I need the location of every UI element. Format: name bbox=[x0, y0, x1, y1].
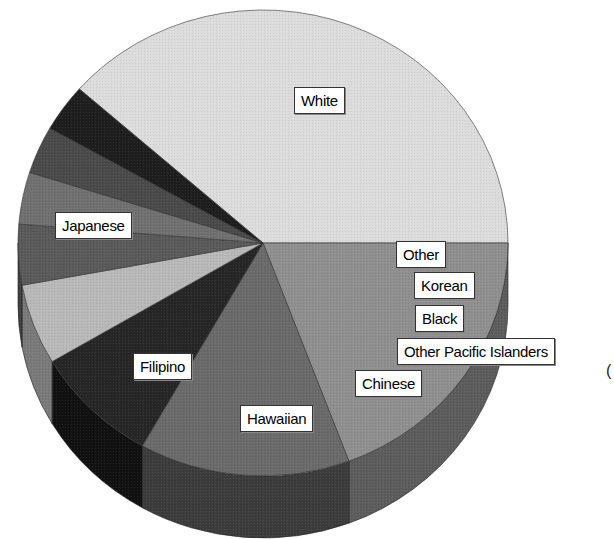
label-japanese: Japanese bbox=[55, 212, 132, 239]
label-other-pacific-islanders: Other Pacific Islanders bbox=[397, 338, 555, 365]
label-filipino: Filipino bbox=[133, 353, 192, 380]
label-korean: Korean bbox=[414, 272, 475, 299]
cut-off-glyph: ( bbox=[606, 362, 611, 380]
label-black: Black bbox=[415, 305, 464, 332]
label-white: White bbox=[294, 87, 345, 114]
pie-chart bbox=[0, 0, 614, 539]
label-hawaiian: Hawaiian bbox=[240, 405, 313, 432]
label-other: Other bbox=[396, 241, 446, 268]
label-chinese: Chinese bbox=[355, 370, 422, 397]
